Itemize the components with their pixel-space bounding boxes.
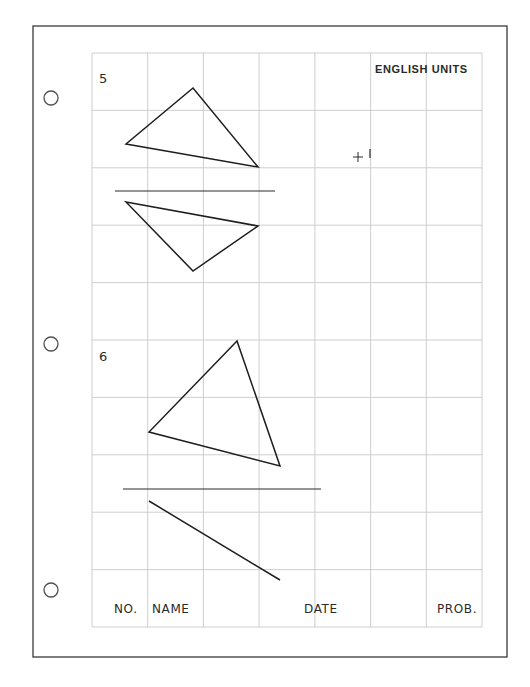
title-field-name: NAME <box>152 603 190 615</box>
units-label: ENGLISH UNITS <box>375 64 468 75</box>
problem-5-number: 5 <box>99 72 107 85</box>
worksheet <box>0 0 530 687</box>
paper-background <box>0 0 530 687</box>
title-field-date: DATE <box>304 603 338 615</box>
title-field-no: NO. <box>114 603 138 615</box>
problem-6-number: 6 <box>99 350 107 363</box>
title-field-prob: PROB. <box>437 603 477 615</box>
